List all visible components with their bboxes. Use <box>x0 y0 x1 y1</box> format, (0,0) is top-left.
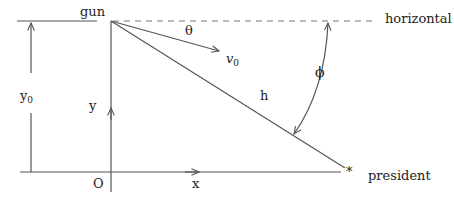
label-y: y <box>88 98 97 113</box>
label-horizontal: horizontal <box>385 11 452 26</box>
label-phi: ϕ <box>315 64 325 80</box>
label-y0: y0 <box>19 88 33 105</box>
v0-vector <box>111 21 219 51</box>
label-v0: v0 <box>226 51 239 68</box>
label-x: x <box>192 176 200 191</box>
president-marker: * <box>346 164 353 179</box>
label-president: president <box>368 168 431 183</box>
projectile-diagram: gun horizontal θ v0 h ϕ y0 y O x * presi… <box>0 0 454 201</box>
label-h: h <box>260 88 269 103</box>
label-gun: gun <box>80 4 106 19</box>
label-origin: O <box>93 176 104 191</box>
label-theta: θ <box>185 23 193 38</box>
line-of-sight-h <box>111 21 345 168</box>
